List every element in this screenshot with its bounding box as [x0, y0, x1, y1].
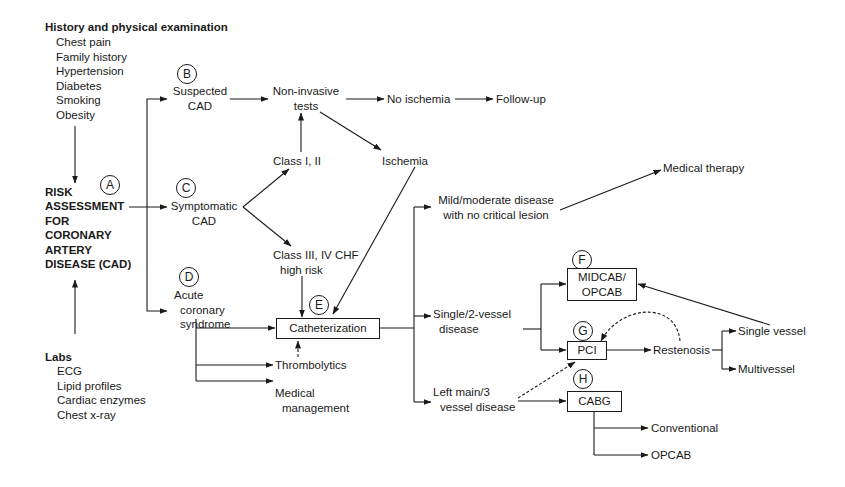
- history-heading: History and physical examination: [45, 20, 228, 35]
- labs-item: Cardiac enzymes: [57, 393, 146, 408]
- arrow-ischemia-to-cath: [333, 167, 415, 314]
- arrow-mild-to-medical-therapy: [560, 170, 661, 210]
- arrow-symptomatic-to-class34: [243, 207, 291, 246]
- risk-line: FOR: [45, 214, 69, 229]
- medical-therapy-node: Medical therapy: [663, 161, 744, 176]
- history-item: Hypertension: [56, 64, 124, 79]
- node-label: MIDCAB/: [578, 270, 626, 285]
- node-label: PCI: [577, 343, 596, 358]
- node-label: management: [275, 401, 349, 416]
- node-label: CAD: [168, 99, 232, 114]
- node-label: coronary: [174, 303, 231, 318]
- connector-layer: [0, 0, 845, 487]
- arrow-noninvasive-to-ischemia: [320, 112, 381, 150]
- node-label: syndrome: [174, 317, 231, 332]
- node-label: Symptomatic: [167, 199, 241, 214]
- cabg-box: CABG: [567, 391, 622, 412]
- medical-management-node: Medical management: [275, 386, 349, 415]
- node-label: OPCAB: [582, 285, 622, 300]
- arrow-risk-to-acute: [147, 207, 167, 311]
- node-label: Medical: [275, 386, 349, 401]
- labs-heading: Labs: [45, 350, 72, 365]
- node-label: high risk: [273, 263, 359, 278]
- restenosis-node: Restenosis: [653, 343, 710, 358]
- node-label: CAD: [167, 214, 241, 229]
- single-2-vessel-node: Single/2-vessel disease: [433, 307, 511, 336]
- conventional-node: Conventional: [651, 421, 718, 436]
- node-label: Acute: [174, 288, 231, 303]
- multivessel-node: Multivessel: [738, 362, 795, 377]
- node-label: with no critical lesion: [432, 208, 560, 223]
- follow-up-node: Follow-up: [496, 92, 546, 107]
- node-label: tests: [268, 99, 344, 114]
- node-label: Suspected: [168, 84, 232, 99]
- noninvasive-tests-node: Non-invasive tests: [268, 84, 344, 113]
- node-label: vessel disease: [433, 400, 515, 415]
- node-label: Left main/3: [433, 385, 515, 400]
- node-label: Class III, IV CHF: [273, 248, 359, 263]
- risk-line: ASSESSMENT: [45, 199, 124, 214]
- suspected-cad-node: Suspected CAD: [168, 84, 232, 113]
- risk-line: CORONARY: [45, 228, 112, 243]
- marker-g: G: [573, 321, 593, 341]
- arrow-single-vessel-to-midcab: [638, 284, 770, 325]
- node-label: Catheterization: [289, 321, 366, 336]
- history-item: Obesity: [56, 108, 95, 123]
- labs-item: Lipid profiles: [57, 379, 122, 394]
- marker-b: B: [177, 64, 197, 84]
- marker-a: A: [100, 175, 120, 195]
- marker-c: C: [176, 178, 196, 198]
- acute-coronary-node: Acute coronary syndrome: [174, 288, 231, 332]
- no-ischemia-node: No ischemia: [387, 92, 450, 107]
- marker-e: E: [309, 295, 329, 315]
- risk-line: DISEASE (CAD): [45, 257, 131, 272]
- risk-line: ARTERY: [45, 243, 92, 258]
- left-main-node: Left main/3 vessel disease: [433, 385, 515, 414]
- history-item: Family history: [56, 50, 127, 65]
- node-label: Non-invasive: [268, 84, 344, 99]
- marker-h: H: [573, 369, 593, 389]
- history-item: Diabetes: [56, 79, 101, 94]
- labs-item: ECG: [57, 364, 82, 379]
- class-3-4-node: Class III, IV CHF high risk: [273, 248, 359, 277]
- ischemia-node: Ischemia: [382, 154, 428, 169]
- class-1-2-node: Class I, II: [273, 154, 321, 169]
- catheterization-box: Catheterization: [276, 318, 380, 339]
- opcab-node: OPCAB: [651, 448, 691, 463]
- single-vessel-node: Single vessel: [738, 324, 806, 339]
- history-item: Smoking: [56, 93, 101, 108]
- midcab-opcab-box: MIDCAB/ OPCAB: [567, 268, 637, 301]
- node-label: CABG: [578, 394, 611, 409]
- node-label: Mild/moderate disease: [432, 193, 560, 208]
- thrombolytics-node: Thrombolytics: [275, 358, 347, 373]
- pci-box: PCI: [567, 341, 607, 360]
- history-item: Chest pain: [56, 35, 111, 50]
- marker-f: F: [572, 250, 592, 270]
- mild-moderate-node: Mild/moderate disease with no critical l…: [432, 193, 560, 222]
- arrow-symptomatic-to-class12: [243, 169, 289, 207]
- node-label: disease: [433, 322, 511, 337]
- marker-d: D: [179, 267, 199, 287]
- labs-item: Chest x-ray: [57, 408, 116, 423]
- node-label: Single/2-vessel: [433, 307, 511, 322]
- risk-line: RISK: [45, 185, 72, 200]
- cad-flowchart: History and physical examination Chest p…: [0, 0, 845, 487]
- arrow-risk-to-suspected: [147, 99, 167, 207]
- arrow-restenosis-to-pci-dashed: [601, 312, 680, 341]
- symptomatic-cad-node: Symptomatic CAD: [167, 199, 241, 228]
